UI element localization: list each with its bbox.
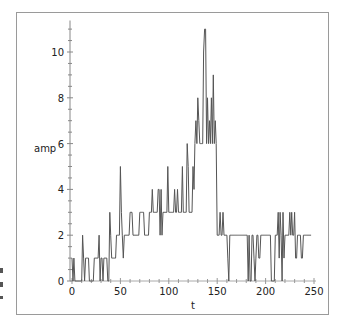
y-tick-label: 0 xyxy=(58,276,64,287)
y-tick-label: 6 xyxy=(58,139,64,150)
x-axis-label: t xyxy=(191,300,195,311)
x-tick-label: 100 xyxy=(159,286,178,297)
x-tick-label: 250 xyxy=(304,286,323,297)
y-tick-label: 4 xyxy=(58,184,64,195)
y-tick-label: 8 xyxy=(58,93,64,104)
x-tick-label: 200 xyxy=(256,286,275,297)
x-tick-label: 150 xyxy=(208,286,227,297)
y-tick-label: 2 xyxy=(58,230,64,241)
y-tick-label: 10 xyxy=(51,47,64,58)
y-axis-label: amp xyxy=(34,143,56,154)
x-tick-label: 50 xyxy=(114,286,127,297)
amp-series-line xyxy=(72,29,311,281)
x-tick-label: 0 xyxy=(69,286,75,297)
line-chart: 0246810050100150200250 t amp xyxy=(0,0,352,326)
